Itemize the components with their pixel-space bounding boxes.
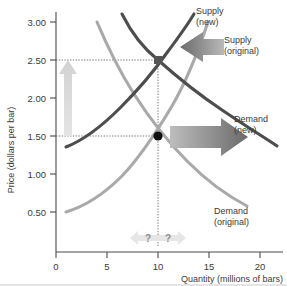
label-supply-new-line1: Supply	[196, 6, 224, 16]
x-tick-label-5: 5	[104, 261, 109, 272]
x-tick-labels: 0 5 10 15 20	[53, 261, 265, 272]
y-tick-labels: 3.00 2.50 2.00 1.50 1.00 0.50	[28, 17, 47, 218]
label-supply-new-line2: (new)	[196, 17, 219, 27]
x-axis-title: Quantity (millions of bars)	[181, 274, 283, 284]
y-tick-label-2-00: 2.00	[28, 93, 47, 104]
new-equilibrium-marker	[154, 56, 162, 64]
label-demand-new: Demand (new)	[234, 114, 268, 135]
original-equilibrium-marker	[153, 131, 162, 140]
x-tick-label-15: 15	[204, 261, 215, 272]
price-increase-arrow	[59, 60, 77, 136]
label-supply-new: Supply (new)	[196, 6, 224, 27]
x-tick-label-10: 10	[153, 261, 164, 272]
label-demand-new-line1: Demand	[234, 114, 268, 124]
supply-shift-arrow	[180, 32, 224, 62]
y-tick-label-1-50: 1.50	[28, 131, 47, 142]
label-demand-original: Demand (original)	[214, 206, 249, 227]
label-supply-original-line1: Supply	[224, 35, 252, 45]
supply-demand-chart: 3.00 2.50 2.00 1.50 1.00 0.50 0 5 10 15 …	[0, 0, 287, 286]
label-demand-original-line1: Demand	[214, 206, 248, 216]
y-tick-label-3-00: 3.00	[28, 17, 47, 28]
y-tick-label-0-50: 0.50	[28, 207, 47, 218]
label-supply-original: Supply (original)	[224, 35, 259, 56]
label-supply-original-line2: (original)	[224, 46, 259, 56]
label-demand-original-line2: (original)	[214, 217, 249, 227]
y-tick-label-1-00: 1.00	[28, 169, 47, 180]
y-tick-label-2-50: 2.50	[28, 55, 47, 66]
question-mark-left: ?	[145, 233, 151, 244]
label-demand-new-line2: (new)	[234, 125, 257, 135]
y-axis-title: Price (dollars per bar)	[6, 107, 16, 194]
x-tick-label-20: 20	[255, 261, 266, 272]
x-tick-label-0: 0	[53, 261, 58, 272]
chart-canvas: 3.00 2.50 2.00 1.50 1.00 0.50 0 5 10 15 …	[0, 0, 287, 286]
question-mark-right: ?	[165, 233, 171, 244]
